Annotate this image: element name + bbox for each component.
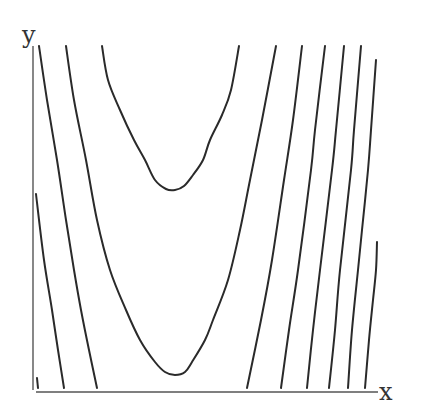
contour-left-1 bbox=[39, 46, 97, 388]
contour-right-5 bbox=[348, 60, 376, 388]
y-axis-label: y bbox=[21, 21, 36, 49]
contour-plot: y x bbox=[0, 0, 423, 418]
contour-upper-valley bbox=[102, 46, 239, 190]
contour-right-4 bbox=[329, 46, 361, 388]
contour-right-1 bbox=[247, 46, 302, 388]
contour-right-2 bbox=[281, 46, 325, 388]
contour-left-short bbox=[36, 194, 64, 388]
contour-corner-tick bbox=[37, 378, 38, 388]
x-axis-label: x bbox=[379, 378, 393, 406]
contour-lower-valley bbox=[66, 46, 276, 375]
contour-right-short bbox=[365, 242, 377, 388]
contour-lines bbox=[36, 46, 377, 388]
contour-right-3 bbox=[307, 46, 344, 388]
